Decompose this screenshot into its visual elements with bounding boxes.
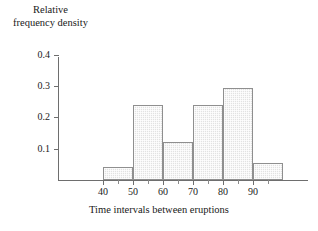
x-tick-mark [163, 180, 164, 185]
x-tick-label: 90 [242, 186, 264, 197]
y-tick-label: 0.3 [38, 80, 51, 91]
x-axis-label: Time intervals between eruptions [0, 203, 318, 216]
histogram-bar [133, 105, 163, 180]
y-tick-label: 0.1 [38, 143, 51, 154]
x-tick-mark [193, 180, 194, 185]
histogram-figure: Relative frequency density 0.10.20.30.4 … [0, 0, 318, 231]
y-tick-mark [54, 55, 59, 56]
x-tick-label: 80 [212, 186, 234, 197]
histogram-bar [163, 142, 193, 180]
y-tick-label: 0.4 [38, 49, 51, 60]
histogram-bar [223, 88, 253, 180]
x-tick-label: 50 [122, 186, 144, 197]
x-tick-label: 60 [152, 186, 174, 197]
x-minor-tick-mark [268, 180, 269, 184]
x-tick-mark [103, 180, 104, 185]
plot-area: 0.10.20.30.4 405060708090 [0, 0, 318, 231]
x-tick-mark [253, 180, 254, 185]
x-minor-tick-mark [178, 180, 179, 184]
x-minor-tick-mark [118, 180, 119, 184]
x-tick-label: 70 [182, 186, 204, 197]
x-minor-tick-mark [208, 180, 209, 184]
histogram-bar [103, 167, 133, 180]
x-tick-label: 40 [92, 186, 114, 197]
y-tick-mark [54, 149, 59, 150]
x-minor-tick-mark [238, 180, 239, 184]
x-minor-tick-mark [148, 180, 149, 184]
histogram-bar [253, 163, 283, 180]
y-axis-line [58, 57, 59, 181]
x-tick-mark [133, 180, 134, 185]
x-axis-line [58, 180, 308, 181]
y-tick-mark [54, 117, 59, 118]
histogram-bar [193, 105, 223, 180]
x-tick-mark [223, 180, 224, 185]
y-tick-mark [54, 86, 59, 87]
y-tick-label: 0.2 [38, 111, 51, 122]
